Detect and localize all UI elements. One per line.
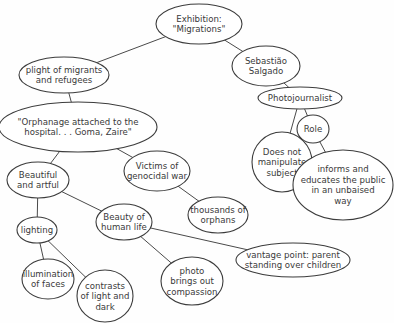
node-label: hospital. . . Goma, Zaire" (24, 127, 132, 137)
node-vantage: vantage point: parentstanding over child… (236, 243, 350, 277)
node-label: and refugees (36, 75, 93, 85)
node-contrasts: contrastsof light anddark (77, 270, 133, 322)
node-victims: Victims ofgenocidal war (124, 151, 190, 191)
node-illumination: illuminationof faces (22, 259, 74, 299)
node-label: photo (180, 266, 205, 276)
node-compassion: photobrings outcompassion (161, 257, 223, 305)
node-label: Role (304, 124, 323, 134)
node-thousands: thousands oforphans (188, 197, 248, 233)
node-label: educates the public (301, 175, 386, 185)
node-label: Does not (263, 147, 302, 157)
node-label: lighting (21, 225, 53, 235)
node-label: Photojournalist (268, 93, 333, 103)
node-label: and artful (17, 180, 59, 190)
node-label: Victims of (136, 161, 179, 171)
node-beauty_life: Beauty ofhuman life (96, 204, 152, 240)
node-label: in an unbaised (311, 185, 374, 195)
node-label: subject (266, 168, 298, 178)
node-label: Salgado (249, 66, 284, 76)
node-label: manipulate (258, 157, 307, 167)
node-label: Beautiful (19, 170, 58, 180)
node-label: brings out (170, 276, 214, 286)
node-label: informs and (317, 164, 368, 174)
node-label: orphans (201, 215, 236, 225)
node-beautiful: Beautifuland artful (7, 162, 69, 198)
node-label: of faces (31, 279, 65, 289)
node-plight: plight of migrantsand refugees (19, 57, 109, 93)
node-label: standing over children (245, 260, 341, 270)
node-lighting: lighting (17, 217, 57, 243)
node-label: "Orphanage attached to the (18, 117, 139, 127)
concept-map-svg: Exhibition:"Migrations"plight of migrant… (0, 0, 394, 323)
node-orphanage: "Orphanage attached to thehospital. . . … (0, 102, 157, 152)
node-label: Sebastião (245, 56, 287, 66)
node-label: vantage point: parent (246, 250, 340, 260)
node-informs: informs andeducates the publicin an unba… (293, 150, 393, 220)
node-salgado: SebastiãoSalgado (232, 46, 300, 86)
node-label: way (334, 196, 351, 206)
node-label: compassion (166, 287, 217, 297)
node-label: genocidal war (127, 171, 188, 181)
node-label: dark (95, 302, 114, 312)
node-label: thousands of (190, 205, 247, 215)
nodes-layer: Exhibition:"Migrations"plight of migrant… (0, 4, 393, 322)
node-label: contrasts (85, 281, 125, 291)
node-label: illumination (23, 269, 74, 279)
node-label: plight of migrants (26, 65, 103, 75)
node-label: of light and (81, 291, 130, 301)
node-label: "Migrations" (173, 24, 226, 34)
node-label: Exhibition: (176, 14, 222, 24)
node-photojournalist: Photojournalist (258, 87, 342, 109)
concept-map: Exhibition:"Migrations"plight of migrant… (0, 0, 394, 323)
node-label: Beauty of (103, 212, 145, 222)
node-label: human life (101, 222, 147, 232)
node-exhibition: Exhibition:"Migrations" (156, 4, 242, 44)
